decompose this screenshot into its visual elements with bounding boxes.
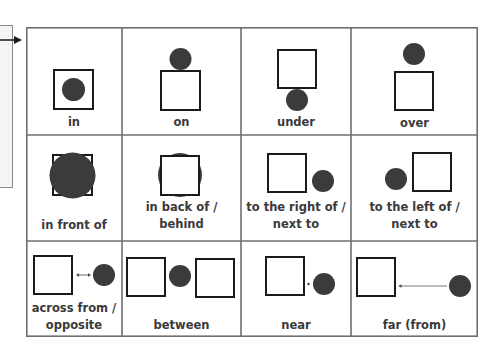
label-line: opposite xyxy=(26,317,122,334)
label-near: near xyxy=(241,317,351,334)
grid-drawing xyxy=(26,27,478,337)
prepositions-grid: in on under over in front of in back of … xyxy=(26,27,478,337)
label-in-front-of: in front of xyxy=(26,217,122,234)
in-illustration xyxy=(54,70,93,109)
label-across-from: across from / opposite xyxy=(26,300,122,334)
label-line: far (from) xyxy=(351,317,478,334)
in-front-of-illustration xyxy=(50,153,96,199)
label-line: to the left of / xyxy=(351,199,478,216)
under-illustration xyxy=(278,50,316,111)
near-illustration xyxy=(266,257,335,295)
label-line: over xyxy=(351,115,478,132)
label-line: in xyxy=(26,114,122,131)
on-illustration xyxy=(161,48,200,110)
between-illustration xyxy=(127,258,234,297)
label-line: next to xyxy=(241,216,351,233)
label-right-of: to the right of / next to xyxy=(241,199,351,233)
label-line: next to xyxy=(351,216,478,233)
label-on: on xyxy=(122,114,241,131)
label-over: over xyxy=(351,115,478,132)
label-under: under xyxy=(241,114,351,131)
across-from-illustration xyxy=(34,256,115,294)
label-in-back-of: in back of / behind xyxy=(122,199,241,233)
over-illustration xyxy=(395,43,433,110)
label-line: across from / xyxy=(26,300,122,317)
label-line: in front of xyxy=(26,217,122,234)
label-line: under xyxy=(241,114,351,131)
side-panel xyxy=(0,25,13,188)
label-line: to the right of / xyxy=(241,199,351,216)
in-back-of-illustration xyxy=(158,153,202,197)
label-between: between xyxy=(122,317,241,334)
right-of-illustration xyxy=(268,154,334,192)
label-line: near xyxy=(241,317,351,334)
label-line: on xyxy=(122,114,241,131)
label-line: between xyxy=(122,317,241,334)
label-left-of: to the left of / next to xyxy=(351,199,478,233)
left-of-illustration xyxy=(385,153,451,191)
label-line: behind xyxy=(122,216,241,233)
label-far-from: far (from) xyxy=(351,317,478,334)
right-arrow-icon xyxy=(0,34,24,46)
label-line: in back of / xyxy=(122,199,241,216)
far-from-illustration xyxy=(357,258,471,297)
label-in: in xyxy=(26,114,122,131)
